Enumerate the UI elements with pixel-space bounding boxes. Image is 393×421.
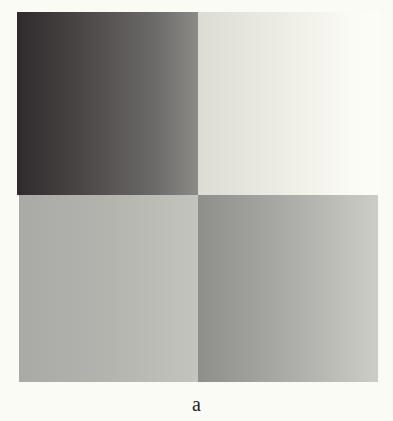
panel-top-right-light-gradient [198, 12, 380, 195]
figure-caption: a [0, 393, 393, 416]
panel-top-left-dark-gradient [17, 12, 198, 195]
panel-bottom-right-gray-gradient [198, 195, 378, 382]
figure: a [0, 0, 393, 421]
panel-bottom-left-gray-gradient [19, 195, 198, 382]
